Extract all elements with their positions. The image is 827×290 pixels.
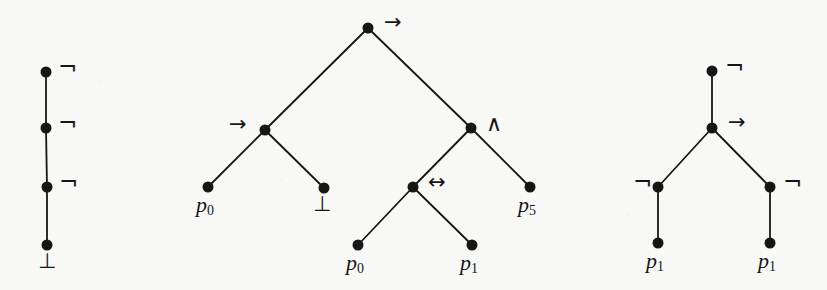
- node-label-atom-p1: p1: [758, 250, 776, 272]
- tree-node-m0[interactable]: [363, 23, 374, 34]
- tree-node-r5[interactable]: [765, 238, 776, 249]
- tree-node-m1[interactable]: [260, 125, 271, 136]
- tree-node-r3[interactable]: [765, 182, 776, 193]
- node-label-negation: ¬: [783, 171, 802, 194]
- node-label-negation: ¬: [59, 171, 78, 194]
- tree-edge: [46, 128, 47, 187]
- node-label-negation: ¬: [58, 56, 77, 79]
- tree-edge: [265, 130, 324, 188]
- formula-tree-figure: ¬¬¬⊥→→∧p0⊥↔p5p0p1¬→¬¬p1p1: [0, 0, 827, 290]
- node-label-biconditional: ↔: [428, 172, 446, 193]
- negated-implication-tree-nodes: [653, 66, 776, 249]
- tree-edge: [658, 128, 712, 187]
- implication-tree-nodes: [203, 23, 536, 251]
- tree-node-m2[interactable]: [466, 123, 477, 134]
- tree-edge: [413, 187, 472, 245]
- tree-edge: [208, 130, 265, 187]
- implication-tree-edges: [208, 28, 530, 245]
- tree-node-m3[interactable]: [203, 182, 214, 193]
- negation-chain-tree-edges: [46, 72, 47, 245]
- tree-edge: [265, 28, 368, 130]
- tree-node-r0[interactable]: [707, 66, 718, 77]
- node-label-atom-p0: p0: [196, 194, 214, 216]
- node-label-implication: →: [728, 112, 746, 133]
- tree-node-l0[interactable]: [41, 67, 52, 78]
- tree-node-r2[interactable]: [653, 182, 664, 193]
- node-label-atom-p1: p1: [460, 252, 478, 274]
- tree-edge: [471, 128, 530, 187]
- node-label-implication: →: [229, 114, 247, 135]
- edges-layer: [46, 28, 770, 245]
- nodes-layer: [41, 23, 776, 251]
- node-label-atom-p1: p1: [646, 250, 664, 272]
- tree-node-l2[interactable]: [42, 182, 53, 193]
- tree-canvas: [0, 0, 827, 290]
- node-label-atom-p5: p5: [518, 194, 536, 216]
- node-label-implication: →: [384, 12, 402, 33]
- node-label-negation: ¬: [58, 112, 77, 135]
- node-label-falsum: ⊥: [313, 194, 331, 215]
- tree-node-m7[interactable]: [353, 240, 364, 251]
- node-label-negation: ¬: [725, 55, 744, 78]
- tree-node-r4[interactable]: [653, 238, 664, 249]
- tree-edge: [358, 187, 413, 245]
- node-label-falsum: ⊥: [38, 251, 56, 272]
- node-label-atom-p0: p0: [346, 252, 364, 274]
- tree-edge: [368, 28, 471, 128]
- node-label-conjunction: ∧: [486, 113, 502, 135]
- tree-node-l1[interactable]: [41, 123, 52, 134]
- negated-implication-tree-edges: [658, 71, 770, 243]
- tree-node-r1[interactable]: [707, 123, 718, 134]
- tree-node-m6[interactable]: [525, 182, 536, 193]
- tree-node-m8[interactable]: [467, 240, 478, 251]
- node-label-negation: ¬: [633, 171, 652, 194]
- tree-node-m5[interactable]: [408, 182, 419, 193]
- tree-edge: [712, 128, 770, 187]
